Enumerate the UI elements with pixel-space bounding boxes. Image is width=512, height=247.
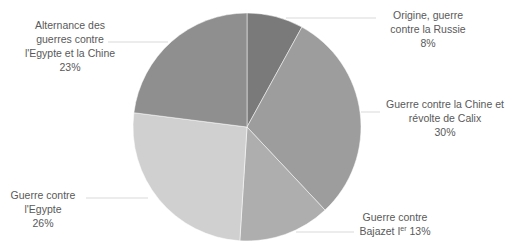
label-text: révolte de Calix — [378, 111, 512, 125]
label-text: Guerre contre la Chine et — [378, 97, 512, 111]
label-text: contre la Russie — [378, 22, 478, 36]
label-text: Guerre contre — [0, 188, 86, 202]
label-percent: 26% — [0, 216, 86, 230]
data-label-origine: Origine, guerre contre la Russie 8% — [378, 8, 478, 50]
data-label-alternance: Alternance des guerres contre l'Egypte e… — [18, 18, 122, 74]
label-percent: 13% — [407, 225, 431, 237]
label-text: guerres contre — [18, 32, 122, 46]
pie-slices — [133, 13, 361, 241]
data-label-chine-calix: Guerre contre la Chine et révolte de Cal… — [378, 97, 512, 139]
label-text: Origine, guerre — [378, 8, 478, 22]
label-text: l'Egypte et la Chine — [18, 46, 122, 60]
label-text: Guerre contre — [350, 210, 440, 224]
label-text-part: Bajazet I — [359, 225, 400, 237]
label-percent: 23% — [18, 60, 122, 74]
pie-slice — [134, 13, 247, 127]
label-percent: 30% — [378, 125, 512, 139]
label-text: Alternance des — [18, 18, 122, 32]
pie-chart: Origine, guerre contre la Russie 8% Guer… — [0, 0, 512, 247]
data-label-egypte: Guerre contre l'Egypte 26% — [0, 188, 86, 230]
pie-slice — [133, 113, 247, 241]
label-percent: 8% — [378, 36, 478, 50]
data-label-bajazet: Guerre contre Bajazet Ier 13% — [350, 210, 440, 238]
label-text: Bajazet Ier 13% — [350, 224, 440, 238]
label-text: l'Egypte — [0, 202, 86, 216]
